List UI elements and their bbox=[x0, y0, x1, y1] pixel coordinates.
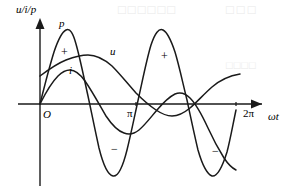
i-waveform-path bbox=[40, 70, 236, 170]
p-waveform-path bbox=[40, 30, 236, 177]
waveform-figure bbox=[0, 0, 295, 195]
curve-p bbox=[40, 30, 236, 177]
curve-label-p: p bbox=[59, 17, 65, 29]
region-sign-minus-1: − bbox=[111, 142, 118, 157]
region-sign-plus-2: + bbox=[161, 49, 168, 64]
x-axis-label: ωt bbox=[268, 110, 279, 122]
x-tick-label-2pi: 2π bbox=[243, 107, 254, 119]
curve-label-i: i bbox=[69, 64, 72, 76]
curve-label-u: u bbox=[110, 45, 116, 57]
region-sign-plus-1: + bbox=[61, 45, 68, 60]
y-axis-arrowhead bbox=[36, 18, 45, 29]
curve-i bbox=[40, 70, 236, 170]
origin-label: O bbox=[43, 108, 51, 120]
y-axis-label: u/i/p bbox=[16, 3, 36, 15]
x-tick-label-pi: π bbox=[127, 107, 133, 119]
region-sign-minus-2: − bbox=[212, 144, 219, 159]
